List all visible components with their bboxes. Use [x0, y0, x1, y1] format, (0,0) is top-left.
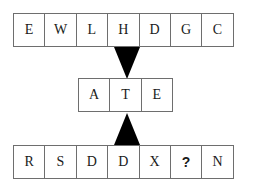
letter-cell: S	[44, 145, 76, 179]
letter-cell: T	[109, 78, 141, 112]
letter-cell: D	[107, 145, 139, 179]
letter-cell: N	[201, 145, 233, 179]
diagram-canvas: E W L H D G C A T E R S D D X ? N	[0, 0, 253, 191]
bottom-letter-row: R S D D X ? N	[13, 145, 234, 179]
up-triangle-pointer-icon	[114, 113, 140, 145]
letter-cell: L	[76, 13, 108, 47]
letter-cell: A	[78, 78, 110, 112]
letter-cell: X	[139, 145, 171, 179]
letter-cell-question: ?	[170, 145, 202, 179]
letter-cell: D	[76, 145, 108, 179]
letter-cell: C	[201, 13, 233, 47]
down-triangle-pointer-icon	[114, 47, 140, 79]
letter-cell: W	[44, 13, 76, 47]
letter-cell: G	[170, 13, 202, 47]
letter-cell: R	[13, 145, 45, 179]
letter-cell: H	[107, 13, 139, 47]
letter-cell: D	[139, 13, 171, 47]
letter-cell: E	[13, 13, 45, 47]
middle-letter-row: A T E	[78, 78, 173, 112]
top-letter-row: E W L H D G C	[13, 13, 234, 47]
letter-cell: E	[141, 78, 173, 112]
